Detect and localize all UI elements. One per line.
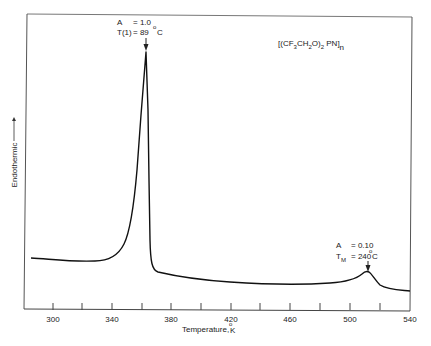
tick-label: 340 — [105, 315, 119, 324]
x-axis-unit: K — [230, 326, 236, 335]
tick-label: 460 — [283, 315, 297, 324]
compound-formula: [(CF3CH2O)2 PN]n — [278, 39, 344, 52]
svg-text:= 89: = 89 — [133, 28, 149, 37]
tick-label: 380 — [164, 315, 178, 324]
svg-text:A: A — [117, 18, 123, 27]
dsc-chart: 300 340 380 420 460 500 540 Temperature,… — [0, 0, 431, 346]
arrow-down-icon — [144, 44, 149, 51]
svg-text:[(CF3CH2O)2 PN]n: [(CF3CH2O)2 PN]n — [278, 39, 344, 52]
x-axis-label-text: Temperature, — [182, 325, 229, 334]
tick-label: 300 — [46, 315, 60, 324]
tick-label: 540 — [403, 315, 417, 324]
tick-label: 500 — [343, 315, 357, 324]
y-axis-label-text: Endothermic — [10, 143, 19, 188]
svg-text:= 1.0: = 1.0 — [133, 18, 152, 27]
arrow-up-icon — [12, 117, 16, 121]
plot-frame — [24, 14, 412, 311]
svg-text:A: A — [336, 241, 342, 250]
svg-text:C: C — [157, 28, 163, 37]
svg-text:C: C — [372, 252, 378, 261]
svg-text:M: M — [341, 257, 346, 263]
y-axis-label: Endothermic — [10, 117, 19, 187]
peak1-annotation: A = 1.0 T(1) = 89 o C — [117, 18, 163, 51]
svg-text:T(1): T(1) — [117, 28, 132, 37]
peak2-annotation: A = 0.10 T M = 240 o C — [336, 241, 378, 272]
